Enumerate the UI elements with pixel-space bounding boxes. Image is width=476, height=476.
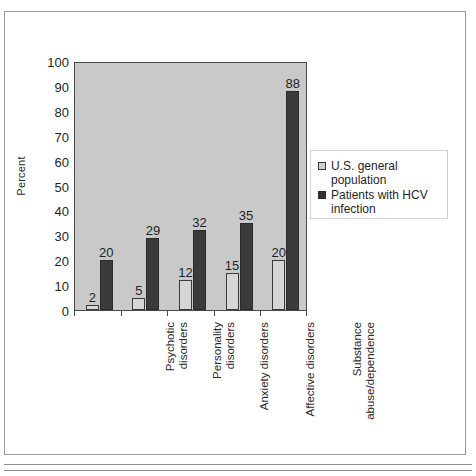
plot-area: 220529123215352088 bbox=[74, 62, 307, 311]
bar: 20 bbox=[272, 260, 285, 310]
x-axis-category-label: Personality disorders bbox=[211, 322, 237, 442]
bar-value-label: 2 bbox=[89, 291, 96, 304]
bar-group: 1535 bbox=[215, 63, 262, 310]
y-axis-title: Percent bbox=[15, 131, 27, 221]
bar: 5 bbox=[132, 298, 145, 310]
y-axis-tick-label: 80 bbox=[36, 105, 69, 118]
legend-swatch-icon bbox=[318, 162, 326, 170]
x-axis-tick bbox=[167, 311, 168, 316]
chart-legend: U.S. general population Patients with HC… bbox=[310, 150, 448, 219]
x-axis-category-label: Substance abuse/dependence bbox=[351, 322, 377, 442]
footer-rule-bottom bbox=[4, 470, 472, 471]
x-axis-category-label: Psychotic disorders bbox=[164, 322, 190, 442]
y-axis-tick-label: 70 bbox=[36, 130, 69, 143]
x-axis-tick bbox=[214, 311, 215, 316]
legend-item-patients-with-hcv-infection: Patients with HCV infection bbox=[318, 188, 428, 216]
y-axis-tick-label: 90 bbox=[36, 80, 69, 93]
bar: 32 bbox=[193, 230, 206, 310]
bar-value-label: 15 bbox=[225, 259, 239, 272]
bar: 29 bbox=[146, 238, 159, 310]
legend-item-us-general-population: U.S. general population bbox=[318, 159, 447, 187]
y-axis-tick-label: 50 bbox=[36, 180, 69, 193]
x-axis-tick bbox=[260, 311, 261, 316]
x-axis-category-label: Affective disorders bbox=[304, 322, 317, 442]
y-axis-tick-label: 30 bbox=[36, 230, 69, 243]
bar-value-label: 20 bbox=[271, 246, 285, 259]
y-axis-tick-label: 40 bbox=[36, 205, 69, 218]
x-axis-tick bbox=[74, 311, 75, 316]
y-axis-tick-label: 10 bbox=[36, 280, 69, 293]
y-axis-tick-labels: 0102030405060708090100 bbox=[36, 62, 69, 311]
bar: 35 bbox=[240, 223, 253, 310]
bar-group: 1232 bbox=[168, 63, 215, 310]
bar-value-label: 32 bbox=[192, 216, 206, 229]
bar-chart: Percent 0102030405060708090100 220529123… bbox=[0, 0, 476, 476]
bar-group: 220 bbox=[75, 63, 122, 310]
x-axis-tick bbox=[306, 311, 307, 316]
bar-value-label: 29 bbox=[146, 224, 160, 237]
legend-item-label: U.S. general population bbox=[331, 159, 447, 187]
bar-value-label: 5 bbox=[135, 284, 142, 297]
x-axis-ticks bbox=[74, 311, 307, 317]
bar: 88 bbox=[286, 91, 299, 310]
y-axis-tick-label: 20 bbox=[36, 255, 69, 268]
legend-swatch-icon bbox=[318, 191, 326, 199]
bar: 15 bbox=[226, 273, 239, 310]
bar: 12 bbox=[179, 280, 192, 310]
bar-group: 529 bbox=[122, 63, 169, 310]
bar-value-label: 20 bbox=[99, 246, 113, 259]
y-axis-tick-label: 60 bbox=[36, 155, 69, 168]
bar: 2 bbox=[86, 305, 99, 310]
x-axis-category-labels: Psychotic disordersPersonality disorders… bbox=[74, 318, 307, 438]
bar-value-label: 12 bbox=[178, 266, 192, 279]
bar-value-label: 35 bbox=[239, 209, 253, 222]
plot-inner: 220529123215352088 bbox=[75, 63, 306, 310]
bar-group: 2088 bbox=[261, 63, 308, 310]
y-axis-tick-label: 100 bbox=[36, 56, 69, 69]
footer-rule-top bbox=[4, 464, 472, 465]
bar-value-label: 88 bbox=[285, 77, 299, 90]
x-axis-category-label: Anxiety disorders bbox=[258, 322, 271, 442]
x-axis-tick bbox=[121, 311, 122, 316]
legend-item-label: Patients with HCV infection bbox=[331, 188, 428, 216]
bar: 20 bbox=[100, 260, 113, 310]
y-axis-tick-label: 0 bbox=[36, 305, 69, 318]
